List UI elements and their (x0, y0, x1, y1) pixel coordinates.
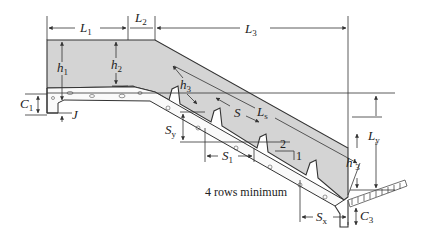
label-Ly: Ly (367, 128, 380, 145)
label-Sy: Sy (165, 122, 177, 139)
label-C3: C3 (360, 208, 374, 225)
label-S: S (234, 105, 241, 120)
label-S1: S1 (222, 148, 233, 165)
label-C1: C1 (20, 96, 33, 113)
label-riprap-note: 4 rows minimum (205, 185, 288, 199)
label-h3prime: h'3 (346, 155, 360, 172)
label-Sx: Sx (316, 209, 328, 226)
label-L2: L2 (134, 10, 147, 27)
label-slope-run: 2 (280, 137, 286, 151)
label-L1: L1 (79, 20, 92, 37)
label-L3: L3 (244, 21, 257, 38)
stepped-chute-diagram: L1 L2 L3 h1 h2 C1 J h3 Ls S Sy S1 2 1 Ly (0, 0, 427, 235)
label-J: J (72, 107, 79, 122)
label-slope-rise: 1 (296, 149, 302, 163)
